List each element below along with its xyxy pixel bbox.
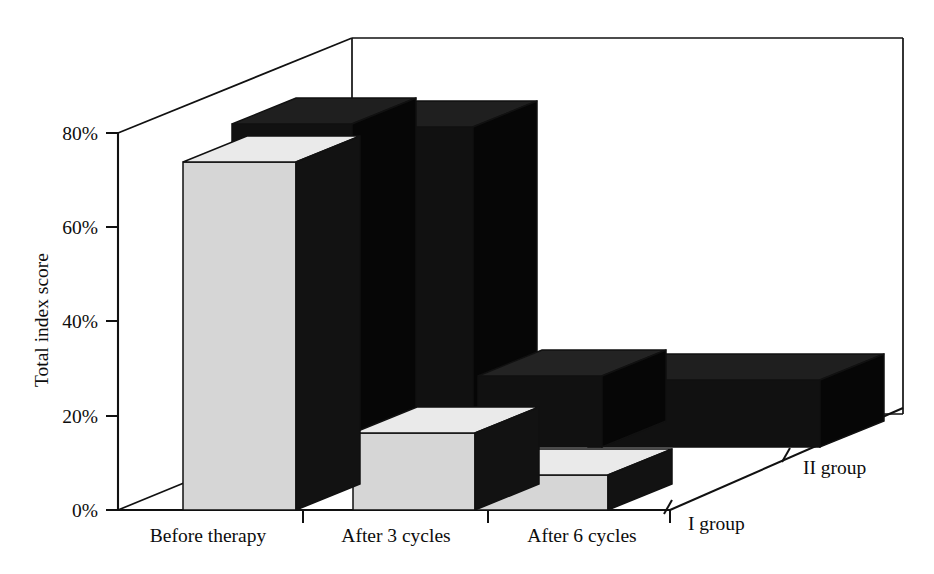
y-tick-label-20: 20% bbox=[62, 406, 98, 427]
z-axis-labels: I group II group bbox=[688, 457, 866, 534]
y-axis-title: Total index score bbox=[31, 253, 52, 387]
bar-I-group-after-3-cycles bbox=[353, 407, 539, 510]
bar-side bbox=[352, 98, 416, 447]
y-axis-tick-labels: 80% 60% 40% 20% 0% bbox=[62, 123, 98, 521]
y-tick-label-80: 80% bbox=[62, 123, 98, 144]
z-category-label-i-group: I group bbox=[688, 513, 745, 534]
y-tick-label-0: 0% bbox=[72, 500, 98, 521]
x-axis-ticks bbox=[303, 510, 670, 523]
y-tick-label-60: 60% bbox=[62, 217, 98, 238]
x-category-label-before-therapy: Before therapy bbox=[150, 525, 267, 546]
bar-face bbox=[353, 433, 475, 510]
x-category-label-after-6-cycles: After 6 cycles bbox=[527, 525, 636, 546]
x-axis-category-labels: Before therapy After 3 cycles After 6 cy… bbox=[150, 525, 637, 546]
bar-face bbox=[183, 162, 296, 510]
z-category-label-ii-group: II group bbox=[803, 457, 866, 478]
y-tick-label-40: 40% bbox=[62, 311, 98, 332]
bar-side bbox=[296, 136, 360, 510]
y-axis-ticks bbox=[106, 133, 118, 510]
bar-I-group-before-therapy bbox=[183, 136, 360, 510]
x-category-label-after-3-cycles: After 3 cycles bbox=[341, 525, 450, 546]
bar-chart-3d: 80% 60% 40% 20% 0% Total index score bbox=[0, 0, 934, 574]
chart-container: 80% 60% 40% 20% 0% Total index score bbox=[0, 0, 934, 574]
